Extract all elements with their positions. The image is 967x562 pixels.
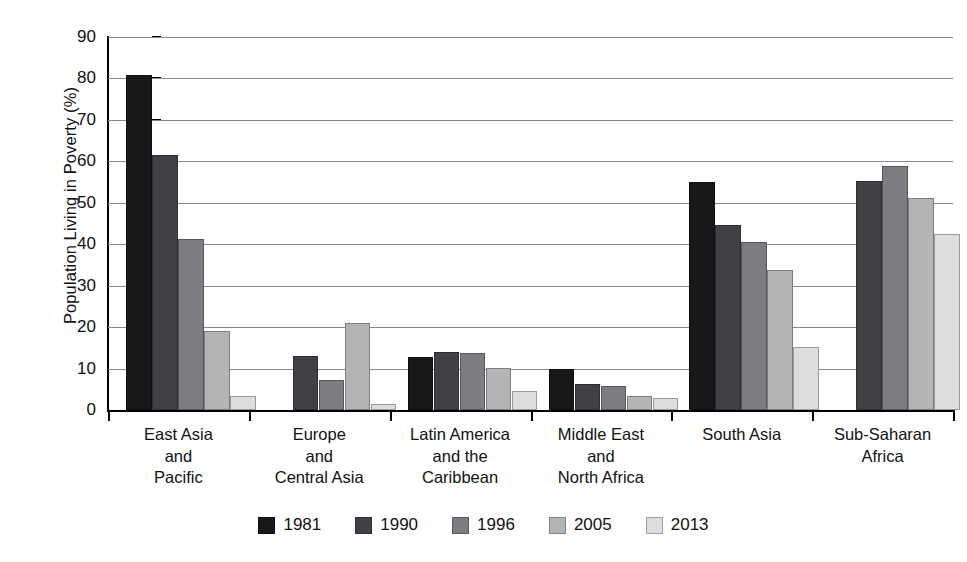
y-tick-label: 90 <box>54 27 96 47</box>
x-axis-label-line: East Asia <box>108 424 249 446</box>
y-tick-label: 0 <box>54 400 96 420</box>
bar <box>178 239 204 410</box>
bar <box>293 356 319 410</box>
bar <box>486 368 512 410</box>
x-axis-label-line: Sub-Saharan <box>812 424 953 446</box>
legend-item[interactable]: 1990 <box>355 515 418 535</box>
bar <box>460 353 486 410</box>
x-axis-label: Sub-SaharanAfrica <box>812 424 953 467</box>
bar <box>689 182 715 410</box>
x-axis-label-line: Pacific <box>108 467 249 489</box>
legend-label: 2013 <box>671 515 709 535</box>
bar-group <box>390 37 531 410</box>
legend-swatch-icon <box>452 517 469 534</box>
chart-legend: 19811990199620052013 <box>0 515 967 535</box>
legend-swatch-icon <box>646 517 663 534</box>
bar <box>856 181 882 410</box>
plot-area <box>108 37 953 410</box>
x-axis-tick <box>249 410 251 421</box>
x-axis-label: East AsiaandPacific <box>108 424 249 489</box>
x-axis-tick <box>953 410 955 421</box>
bar <box>126 75 152 410</box>
x-axis-tick <box>671 410 673 421</box>
y-tick-label: 20 <box>54 317 96 337</box>
x-axis-label-line: Europe <box>249 424 390 446</box>
x-axis-label-line: Middle East <box>531 424 672 446</box>
bar-group <box>812 37 953 410</box>
y-axis-tick-labels: 0102030405060708090 <box>50 0 96 562</box>
x-axis-category-labels: East AsiaandPacificEuropeandCentral Asia… <box>108 424 953 496</box>
legend-item[interactable]: 2005 <box>549 515 612 535</box>
bar <box>434 352 460 410</box>
x-axis-label: Middle EastandNorth Africa <box>531 424 672 489</box>
x-axis-label-line: Central Asia <box>249 467 390 489</box>
bar-group <box>531 37 672 410</box>
legend-label: 1990 <box>380 515 418 535</box>
x-axis-label: South Asia <box>671 424 812 446</box>
y-tick-label: 10 <box>54 359 96 379</box>
x-axis-label-line: and <box>531 446 672 468</box>
x-axis-label-line: North Africa <box>531 467 672 489</box>
legend-label: 2005 <box>574 515 612 535</box>
bar <box>767 270 793 410</box>
x-axis-tick <box>390 410 392 421</box>
bar <box>908 198 934 410</box>
y-tick-label: 60 <box>54 151 96 171</box>
x-axis-tick <box>531 410 533 421</box>
bar <box>934 234 960 410</box>
legend-label: 1996 <box>477 515 515 535</box>
bar <box>345 323 371 410</box>
bar <box>575 384 601 410</box>
y-tick-label: 30 <box>54 276 96 296</box>
x-axis-label-line: and <box>108 446 249 468</box>
bar <box>882 166 908 410</box>
legend-item[interactable]: 1996 <box>452 515 515 535</box>
bar <box>549 369 575 410</box>
x-axis-label: EuropeandCentral Asia <box>249 424 390 489</box>
bar-group <box>108 37 249 410</box>
bar <box>408 357 434 410</box>
x-axis-label-line: and the <box>390 446 531 468</box>
bar-group <box>249 37 390 410</box>
x-axis-tick <box>812 410 814 421</box>
bar <box>204 331 230 410</box>
x-axis-label-line: Africa <box>812 446 953 468</box>
y-tick-label: 50 <box>54 193 96 213</box>
bar <box>152 155 178 410</box>
bar <box>601 386 627 410</box>
x-axis-label-line: South Asia <box>671 424 812 446</box>
x-axis-label-line: Caribbean <box>390 467 531 489</box>
poverty-bar-chart: Population Living in Poverty (%) 0102030… <box>0 0 967 562</box>
legend-swatch-icon <box>549 517 566 534</box>
legend-label: 1981 <box>283 515 321 535</box>
x-axis-tick <box>108 410 110 421</box>
x-axis-label: Latin Americaand theCaribbean <box>390 424 531 489</box>
y-tick-label: 80 <box>54 68 96 88</box>
bar <box>319 380 345 410</box>
bar <box>715 225 741 410</box>
legend-item[interactable]: 1981 <box>258 515 321 535</box>
bar-group <box>671 37 812 410</box>
y-tick-label: 40 <box>54 234 96 254</box>
bar <box>741 242 767 410</box>
legend-swatch-icon <box>355 517 372 534</box>
legend-item[interactable]: 2013 <box>646 515 709 535</box>
bar-groups <box>108 37 953 410</box>
x-axis-label-line: Latin America <box>390 424 531 446</box>
legend-swatch-icon <box>258 517 275 534</box>
bar <box>627 396 653 410</box>
x-axis-label-line: and <box>249 446 390 468</box>
y-tick-label: 70 <box>54 110 96 130</box>
